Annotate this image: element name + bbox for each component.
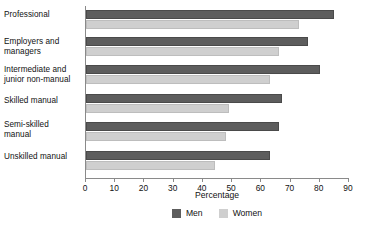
x-axis-title: Percentage — [85, 190, 349, 200]
x-tick-0 — [85, 178, 86, 182]
bar-women-group-1 — [86, 20, 299, 29]
category-label-employers-and-managers: Employers and managers — [4, 37, 84, 56]
x-tick-10 — [114, 178, 115, 182]
legend-item-men: Men — [172, 208, 203, 218]
x-tick-30 — [173, 178, 174, 182]
bar-women-group-6 — [86, 161, 215, 170]
category-label-unskilled-manual: Unskilled manual — [4, 152, 84, 162]
bar-women-group-4 — [86, 104, 229, 113]
category-label-line2: managers — [4, 47, 41, 56]
bar-men-group-3 — [86, 65, 320, 74]
category-label-line1: Skilled manual — [4, 96, 58, 105]
category-label-line1: Semi-skilled — [4, 120, 49, 129]
bar-men-group-6 — [86, 151, 270, 160]
legend-swatch-women-icon — [219, 209, 228, 218]
category-label-column: Professional Employers and managers Inte… — [0, 6, 83, 178]
category-label-skilled-manual: Skilled manual — [4, 96, 84, 106]
category-label-line1: Professional — [4, 10, 50, 19]
plot-area: 0102030405060708090 — [85, 6, 348, 178]
bar-men-group-1 — [86, 10, 334, 19]
x-axis-line — [85, 178, 349, 179]
x-tick-40 — [202, 178, 203, 182]
bar-men-group-2 — [86, 37, 308, 46]
category-label-intermediate-and-junior-non-manual: Intermediate and junior non-manual — [4, 65, 84, 84]
x-tick-90 — [348, 178, 349, 182]
bar-women-group-3 — [86, 75, 270, 84]
legend-label-men: Men — [186, 208, 203, 218]
x-tick-50 — [231, 178, 232, 182]
category-label-professional: Professional — [4, 10, 84, 20]
bar-women-group-2 — [86, 47, 279, 56]
legend-label-women: Women — [233, 208, 262, 218]
bar-men-group-4 — [86, 94, 282, 103]
legend-item-women: Women — [219, 208, 262, 218]
x-tick-20 — [143, 178, 144, 182]
category-label-line2: junior non-manual — [4, 75, 70, 84]
category-label-line1: Employers and — [4, 37, 59, 46]
category-label-line2: manual — [4, 130, 31, 139]
chart-legend: Men Women — [85, 208, 349, 218]
x-tick-70 — [290, 178, 291, 182]
x-tick-80 — [319, 178, 320, 182]
bar-men-group-5 — [86, 122, 279, 131]
bar-women-group-5 — [86, 132, 226, 141]
category-label-line1: Unskilled manual — [4, 152, 67, 161]
x-tick-60 — [260, 178, 261, 182]
category-label-line1: Intermediate and — [4, 65, 66, 74]
legend-swatch-men-icon — [172, 209, 181, 218]
bar-chart: Professional Employers and managers Inte… — [0, 0, 365, 229]
category-label-semi-skilled-manual: Semi-skilled manual — [4, 120, 84, 139]
